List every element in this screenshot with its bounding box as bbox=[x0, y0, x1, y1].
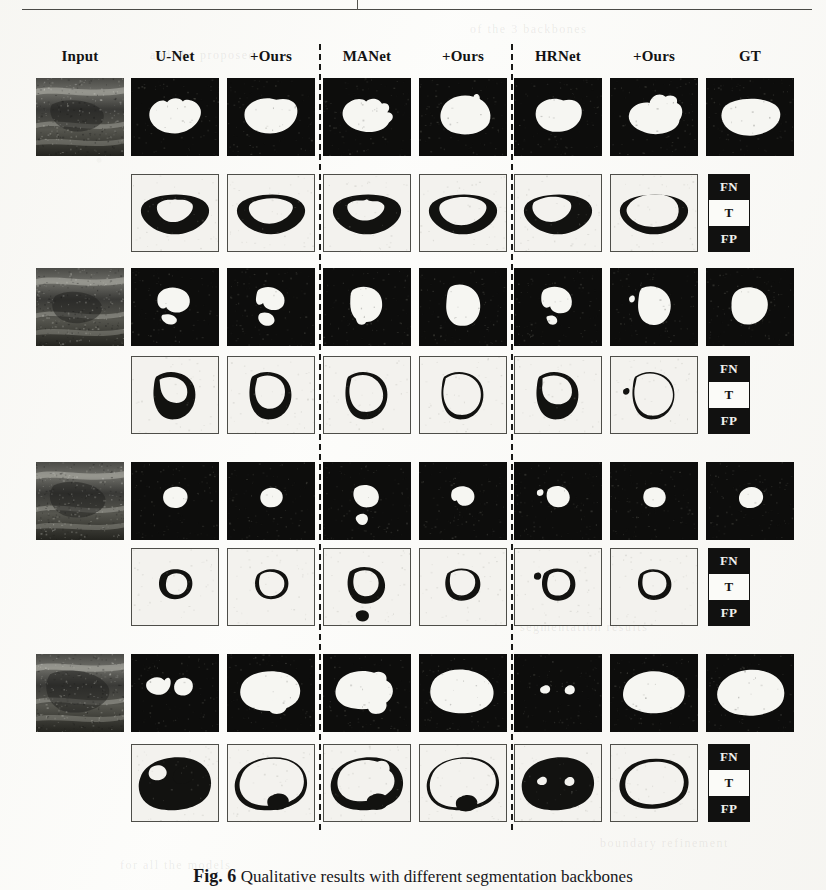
legend-cell-t: T bbox=[708, 200, 750, 226]
column-header-gt-8: GT bbox=[706, 48, 794, 65]
legend-cell-fn: FN bbox=[708, 356, 750, 382]
error-legend-case3: FNTFP bbox=[708, 548, 750, 626]
input-ultrasound-case3 bbox=[36, 462, 124, 540]
column-header-ours-5: +Ours bbox=[419, 48, 507, 65]
error-map-case1-col4 bbox=[323, 174, 411, 252]
group-separator-1 bbox=[319, 44, 321, 830]
prediction-mask-case4-col2 bbox=[131, 654, 219, 732]
column-header-ours-7: +Ours bbox=[610, 48, 698, 65]
prediction-mask-case1-col4 bbox=[323, 78, 411, 156]
legend-cell-fp: FP bbox=[708, 226, 750, 252]
groundtruth-mask-case1-col8 bbox=[706, 78, 794, 156]
figure-caption: Fig. 6 Qualitative results with differen… bbox=[0, 866, 826, 890]
error-map-case2-col4 bbox=[323, 356, 411, 434]
error-legend-case4: FNTFP bbox=[708, 744, 750, 822]
error-map-case3-col6 bbox=[514, 548, 602, 626]
prediction-mask-case3-col5 bbox=[419, 462, 507, 540]
prediction-mask-case3-col4 bbox=[323, 462, 411, 540]
qualitative-results-figure: InputU-Net+OursMANet+OursHRNet+OursGT FN… bbox=[0, 0, 826, 890]
legend-cell-fn: FN bbox=[708, 744, 750, 770]
error-map-case1-col3 bbox=[227, 174, 315, 252]
prediction-mask-case1-col2 bbox=[131, 78, 219, 156]
error-legend-case1: FNTFP bbox=[708, 174, 750, 252]
prediction-mask-case4-col3 bbox=[227, 654, 315, 732]
prediction-mask-case2-col2 bbox=[131, 268, 219, 346]
legend-cell-t: T bbox=[708, 574, 750, 600]
prediction-mask-case4-col6 bbox=[514, 654, 602, 732]
error-map-case1-col7 bbox=[610, 174, 698, 252]
legend-cell-t: T bbox=[708, 770, 750, 796]
error-map-case2-col5 bbox=[419, 356, 507, 434]
error-map-case3-col5 bbox=[419, 548, 507, 626]
column-header-ours-3: +Ours bbox=[227, 48, 315, 65]
error-map-case1-col6 bbox=[514, 174, 602, 252]
prediction-mask-case2-col7 bbox=[610, 268, 698, 346]
input-ultrasound-case4 bbox=[36, 654, 124, 732]
column-header-input-1: Input bbox=[36, 48, 124, 65]
prediction-mask-case4-col7 bbox=[610, 654, 698, 732]
prediction-mask-case4-col4 bbox=[323, 654, 411, 732]
error-map-case3-col2 bbox=[131, 548, 219, 626]
error-map-case1-col2 bbox=[131, 174, 219, 252]
error-map-case3-col7 bbox=[610, 548, 698, 626]
prediction-mask-case2-col4 bbox=[323, 268, 411, 346]
groundtruth-mask-case4-col8 bbox=[706, 654, 794, 732]
prediction-mask-case2-col3 bbox=[227, 268, 315, 346]
prediction-mask-case3-col6 bbox=[514, 462, 602, 540]
figure-caption-text: Qualitative results with different segme… bbox=[241, 867, 633, 886]
error-map-case2-col2 bbox=[131, 356, 219, 434]
column-header-u-net-2: U-Net bbox=[131, 48, 219, 65]
error-map-case1-col5 bbox=[419, 174, 507, 252]
input-ultrasound-case2 bbox=[36, 268, 124, 346]
input-ultrasound-case1 bbox=[36, 78, 124, 156]
prediction-mask-case3-col3 bbox=[227, 462, 315, 540]
prediction-mask-case3-col7 bbox=[610, 462, 698, 540]
error-map-case2-col7 bbox=[610, 356, 698, 434]
column-header-hrnet-6: HRNet bbox=[514, 48, 602, 65]
error-map-case4-col6 bbox=[514, 744, 602, 822]
prediction-mask-case4-col5 bbox=[419, 654, 507, 732]
error-map-case2-col6 bbox=[514, 356, 602, 434]
legend-cell-fn: FN bbox=[708, 548, 750, 574]
figure-caption-label: Fig. 6 bbox=[193, 866, 241, 886]
prediction-mask-case2-col6 bbox=[514, 268, 602, 346]
prediction-mask-case1-col7 bbox=[610, 78, 698, 156]
error-map-case4-col3 bbox=[227, 744, 315, 822]
legend-cell-fp: FP bbox=[708, 600, 750, 626]
error-legend-case2: FNTFP bbox=[708, 356, 750, 434]
legend-cell-fp: FP bbox=[708, 408, 750, 434]
prediction-mask-case1-col6 bbox=[514, 78, 602, 156]
column-header-manet-4: MANet bbox=[323, 48, 411, 65]
legend-cell-fn: FN bbox=[708, 174, 750, 200]
legend-cell-t: T bbox=[708, 382, 750, 408]
error-map-case4-col7 bbox=[610, 744, 698, 822]
error-map-case3-col4 bbox=[323, 548, 411, 626]
groundtruth-mask-case3-col8 bbox=[706, 462, 794, 540]
prediction-mask-case2-col5 bbox=[419, 268, 507, 346]
groundtruth-mask-case2-col8 bbox=[706, 268, 794, 346]
legend-cell-fp: FP bbox=[708, 796, 750, 822]
error-map-case4-col5 bbox=[419, 744, 507, 822]
error-map-case4-col2 bbox=[131, 744, 219, 822]
prediction-mask-case1-col5 bbox=[419, 78, 507, 156]
error-map-case3-col3 bbox=[227, 548, 315, 626]
error-map-case4-col4 bbox=[323, 744, 411, 822]
group-separator-2 bbox=[511, 44, 513, 830]
prediction-mask-case1-col3 bbox=[227, 78, 315, 156]
error-map-case2-col3 bbox=[227, 356, 315, 434]
prediction-mask-case3-col2 bbox=[131, 462, 219, 540]
